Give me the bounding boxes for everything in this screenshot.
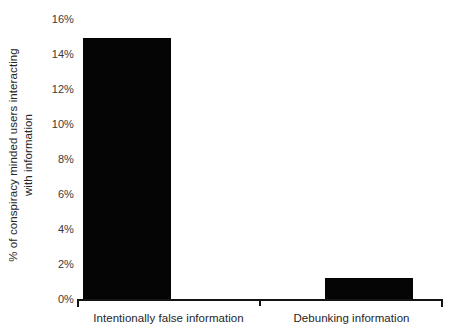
y-axis-title: % of conspiracy minded users interacting… bbox=[0, 0, 42, 310]
bar bbox=[325, 278, 413, 300]
y-axis-tick-label: 10% bbox=[44, 119, 74, 130]
y-axis-tick-label: 16% bbox=[44, 14, 74, 25]
x-axis-left-end-cap bbox=[77, 299, 79, 307]
x-axis-tick-labels: Intentionally false informationDebunking… bbox=[77, 311, 443, 333]
bar-chart-figure: % of conspiracy minded users interacting… bbox=[0, 0, 449, 335]
x-axis-center-tick bbox=[259, 299, 261, 306]
x-axis-tick-label: Debunking information bbox=[260, 311, 443, 325]
y-axis-tick-label: 2% bbox=[44, 259, 74, 270]
y-axis-tick-label: 6% bbox=[44, 189, 74, 200]
x-axis-right-end-cap bbox=[441, 299, 443, 307]
x-axis-tick-label: Intentionally false information bbox=[77, 311, 260, 325]
y-axis-tick-label: 4% bbox=[44, 224, 74, 235]
y-axis-tick-label: 14% bbox=[44, 49, 74, 60]
y-axis-title-line-2: with information bbox=[21, 48, 36, 262]
y-axis-tick-labels: 0%2%4%6%8%10%12%14%16% bbox=[44, 0, 74, 335]
y-axis-title-line-1: % of conspiracy minded users interacting bbox=[6, 48, 21, 262]
plot-area bbox=[77, 14, 443, 300]
y-axis-tick-label: 0% bbox=[44, 294, 74, 305]
bar bbox=[83, 38, 171, 301]
y-axis-tick-label: 12% bbox=[44, 84, 74, 95]
y-axis-tick-label: 8% bbox=[44, 154, 74, 165]
